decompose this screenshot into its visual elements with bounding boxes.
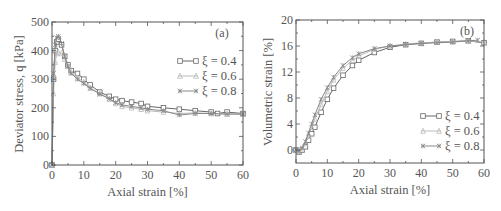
square-marker xyxy=(120,98,125,103)
y-tick-label: 300 xyxy=(31,72,49,86)
asterisk-marker xyxy=(341,63,346,68)
y-tick-label: 16 xyxy=(281,39,293,53)
legend-item: ξ = 0.4 xyxy=(421,109,481,123)
figure: 01020304050600100200300400500 (a) ξ = 0.… xyxy=(0,0,501,211)
panel-b-ticks: 0102030405060048121620 xyxy=(281,13,490,180)
square-marker xyxy=(129,100,134,105)
legend-item: ξ = 0.4 xyxy=(178,54,238,68)
x-tick-label: 10 xyxy=(78,168,90,182)
x-tick-label: 10 xyxy=(321,166,333,180)
x-tick-label: 60 xyxy=(478,166,490,180)
legend-label: ξ = 0.8 xyxy=(445,139,480,153)
panel-b-legend: ξ = 0.4ξ = 0.6ξ = 0.8 xyxy=(421,109,481,153)
legend-label: ξ = 0.6 xyxy=(202,69,237,83)
x-tick-label: 20 xyxy=(110,168,122,182)
square-marker xyxy=(331,86,336,91)
y-tick-label: 4 xyxy=(287,117,293,131)
square-marker xyxy=(421,114,426,119)
panel-a-x-axis-title: Axial strain [%] xyxy=(107,185,188,199)
legend-label: ξ = 0.4 xyxy=(202,54,237,68)
asterisk-marker xyxy=(350,55,355,60)
panel-a-deviator-stress: 01020304050600100200300400500 (a) ξ = 0.… xyxy=(12,15,249,199)
panel-a-label: (a) xyxy=(215,26,228,40)
square-marker xyxy=(356,58,361,63)
asterisk-marker xyxy=(53,43,58,48)
x-tick-label: 20 xyxy=(353,166,365,180)
panel-b-volumetric-strain: 0102030405060048121620 (b) ξ = 0.4ξ = 0.… xyxy=(261,13,490,197)
legend-item: ξ = 0.6 xyxy=(178,69,237,83)
panel-b-x-axis-title: Axial strain [%] xyxy=(350,183,431,197)
x-tick-label: 0 xyxy=(293,166,299,180)
square-marker xyxy=(319,110,324,115)
y-tick-label: 0 xyxy=(43,158,49,172)
y-tick-label: 500 xyxy=(31,15,49,29)
x-tick-label: 60 xyxy=(237,168,249,182)
legend-label: ξ = 0.4 xyxy=(445,109,480,123)
panel-b-label: (b) xyxy=(460,24,474,38)
legend-item: ξ = 0.8 xyxy=(178,84,237,98)
y-tick-label: 400 xyxy=(31,44,49,58)
panel-a-ticks: 01020304050600100200300400500 xyxy=(31,15,249,182)
legend-item: ξ = 0.6 xyxy=(421,124,480,138)
square-marker xyxy=(178,59,183,64)
asterisk-marker xyxy=(319,97,324,102)
square-marker xyxy=(194,59,199,64)
square-marker xyxy=(341,73,346,78)
y-tick-label: 20 xyxy=(281,13,293,27)
x-tick-label: 50 xyxy=(447,166,459,180)
y-tick-label: 12 xyxy=(281,65,293,79)
panel-b-y-axis-title: Volumetric strain [%] xyxy=(261,38,275,146)
x-tick-label: 40 xyxy=(415,166,427,180)
x-tick-label: 40 xyxy=(173,168,185,182)
x-tick-label: 0 xyxy=(49,168,55,182)
square-marker xyxy=(139,101,144,106)
legend-label: ξ = 0.6 xyxy=(445,124,480,138)
y-tick-label: 200 xyxy=(31,101,49,115)
legend-item: ξ = 0.8 xyxy=(421,139,480,153)
square-marker xyxy=(325,97,330,102)
panel-a-y-axis-title: Deviator stress, q [kPa] xyxy=(12,35,26,152)
panel-a-legend: ξ = 0.4ξ = 0.6ξ = 0.8 xyxy=(178,54,238,98)
x-tick-label: 30 xyxy=(142,168,154,182)
square-marker xyxy=(350,63,355,68)
y-tick-label: 0 xyxy=(287,143,293,157)
x-tick-label: 50 xyxy=(205,168,217,182)
y-tick-label: 100 xyxy=(31,129,49,143)
legend-label: ξ = 0.8 xyxy=(202,84,237,98)
square-marker xyxy=(437,114,442,119)
y-tick-label: 8 xyxy=(287,91,293,105)
x-tick-label: 30 xyxy=(384,166,396,180)
